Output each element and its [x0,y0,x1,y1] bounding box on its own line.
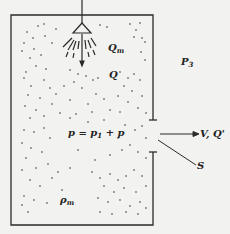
label-spray-flow-main: Q [108,42,117,53]
label-flow: Q [109,70,118,80]
outlet-arrow-icon [160,132,199,137]
label-opening-text: S [197,160,204,171]
eq-lhs: p [68,127,75,138]
label-flow-main: Q [109,69,118,80]
eq-equals: = [75,127,90,138]
label-spray-flow: Qm [108,43,124,54]
opening-leader-line [158,140,196,165]
label-outlet-text: V, Q' [200,128,225,139]
label-outlet: V, Q' [200,129,225,139]
label-spray-flow-sub: m [117,46,124,55]
label-outside-pressure-main: P [181,56,189,67]
eq-p2: p [118,127,125,138]
droplet-particles [21,22,147,215]
label-density: ρm [60,195,74,206]
label-pressure-equation: p = p1 + p [68,128,125,139]
spray-nozzle-icon [63,0,96,66]
label-outside-pressure: P3 [181,57,193,68]
eq-plus: + [102,127,117,138]
label-opening: S [197,161,204,171]
chamber-walls [11,15,157,225]
label-density-main: ρ [60,194,67,205]
label-density-sub: m [67,198,74,207]
label-outside-pressure-sub: 3 [189,60,194,69]
diagram-canvas [0,0,230,234]
